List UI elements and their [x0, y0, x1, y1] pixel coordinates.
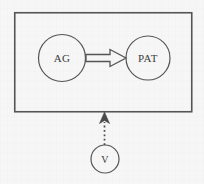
diagram-canvas: AG PAT V	[0, 0, 204, 184]
dotted-arrow-head	[100, 112, 110, 124]
diagram-svg: AG PAT V	[0, 0, 204, 184]
node-pat-label: PAT	[138, 52, 158, 64]
edge-v-to-boundary	[100, 112, 110, 145]
clause-boundary-box	[15, 13, 192, 112]
node-v-label: V	[101, 154, 109, 165]
edge-ag-to-pat	[86, 50, 126, 67]
block-arrow-shape	[86, 50, 126, 67]
node-ag-label: AG	[54, 52, 71, 64]
